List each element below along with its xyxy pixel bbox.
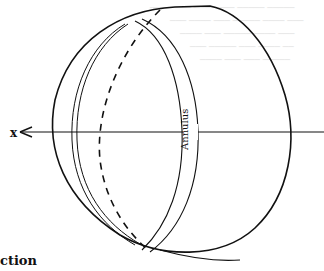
- hidden-circle-dashed: [99, 10, 160, 250]
- hemisphere-annulus-diagram: [0, 0, 324, 271]
- annulus-label: Annulus: [179, 109, 190, 150]
- rim-line-2: [77, 24, 140, 244]
- x-axis-label: x: [10, 126, 17, 140]
- section-heading-fragment: ction: [0, 253, 37, 268]
- annulus-arc-inner: [135, 21, 182, 250]
